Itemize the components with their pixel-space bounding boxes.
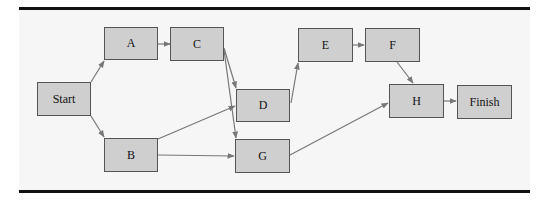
node-a: A (104, 27, 158, 60)
node-label: G (258, 149, 267, 164)
edge-b-g (158, 155, 234, 156)
node-label: B (127, 148, 135, 163)
node-f: F (365, 28, 420, 62)
node-label: Finish (469, 95, 499, 110)
node-label: F (389, 38, 396, 53)
edge-d-e (291, 63, 298, 103)
edge-b-d (158, 106, 235, 139)
node-d: D (236, 89, 290, 122)
node-finish: Finish (457, 85, 512, 119)
node-b: B (104, 138, 158, 172)
node-label: Start (53, 92, 76, 107)
node-label: H (412, 94, 421, 109)
edge-start-b (91, 116, 104, 137)
node-h: H (389, 84, 444, 118)
node-label: D (259, 98, 268, 113)
edge-c-d (224, 48, 236, 88)
edge-start-a (91, 61, 104, 82)
node-label: C (193, 37, 201, 52)
node-e: E (298, 28, 353, 62)
edge-g-h (290, 103, 388, 155)
node-start: Start (37, 82, 91, 116)
node-g: G (235, 139, 290, 173)
node-label: A (127, 36, 136, 51)
edge-c-g (224, 50, 236, 138)
edge-f-h (397, 62, 413, 83)
node-label: E (322, 38, 329, 53)
node-c: C (170, 27, 224, 61)
